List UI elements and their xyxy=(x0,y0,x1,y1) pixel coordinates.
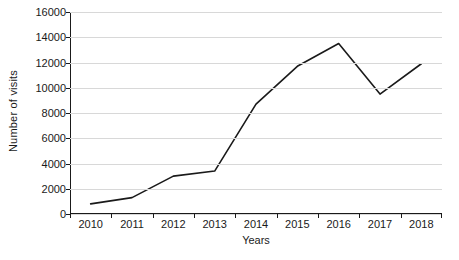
x-tick-label: 2018 xyxy=(409,218,433,230)
plot-area xyxy=(70,12,442,214)
gridline-y xyxy=(70,63,442,64)
x-axis-tick-labels: 201020112012201320142015201620172018 xyxy=(70,218,442,234)
y-tick-mark xyxy=(66,12,70,13)
gridline-y xyxy=(70,189,442,190)
x-tick-label: 2013 xyxy=(202,218,226,230)
series-polyline xyxy=(91,44,422,204)
y-tick-label: 0 xyxy=(18,208,66,220)
y-tick-mark xyxy=(66,88,70,89)
y-tick-label: 4000 xyxy=(18,158,66,170)
y-tick-label: 6000 xyxy=(18,132,66,144)
gridline-y xyxy=(70,37,442,38)
gridline-y xyxy=(70,88,442,89)
y-tick-mark xyxy=(66,63,70,64)
x-tick-label: 2016 xyxy=(326,218,350,230)
y-tick-mark xyxy=(66,189,70,190)
x-tick-label: 2012 xyxy=(161,218,185,230)
gridline-y xyxy=(70,113,442,114)
y-tick-label: 16000 xyxy=(18,6,66,18)
x-tick-label: 2014 xyxy=(244,218,268,230)
gridline-y xyxy=(70,164,442,165)
y-tick-label: 8000 xyxy=(18,107,66,119)
y-tick-mark xyxy=(66,138,70,139)
y-tick-mark xyxy=(66,164,70,165)
y-axis-tick-labels: 0200040006000800010000120001400016000 xyxy=(18,12,66,214)
y-tick-mark xyxy=(66,113,70,114)
x-tick-label: 2015 xyxy=(285,218,309,230)
y-tick-label: 12000 xyxy=(18,57,66,69)
x-axis-title: Years xyxy=(70,234,442,246)
x-tick-label: 2017 xyxy=(368,218,392,230)
y-tick-label: 2000 xyxy=(18,183,66,195)
y-tick-label: 10000 xyxy=(18,82,66,94)
line-chart: Number of visits 02000400060008000100001… xyxy=(0,0,459,260)
y-tick-mark xyxy=(66,37,70,38)
y-tick-label: 14000 xyxy=(18,31,66,43)
gridline-y xyxy=(70,138,442,139)
gridline-y xyxy=(70,12,442,13)
x-tick-label: 2010 xyxy=(78,218,102,230)
x-tick-label: 2011 xyxy=(120,218,144,230)
gridline-y xyxy=(70,214,442,215)
